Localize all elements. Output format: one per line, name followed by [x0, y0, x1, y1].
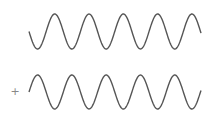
wave-diagram: +: [0, 0, 213, 134]
plus-operator: +: [10, 85, 19, 98]
wave-bottom: [29, 75, 201, 109]
wave-top: [29, 14, 201, 49]
